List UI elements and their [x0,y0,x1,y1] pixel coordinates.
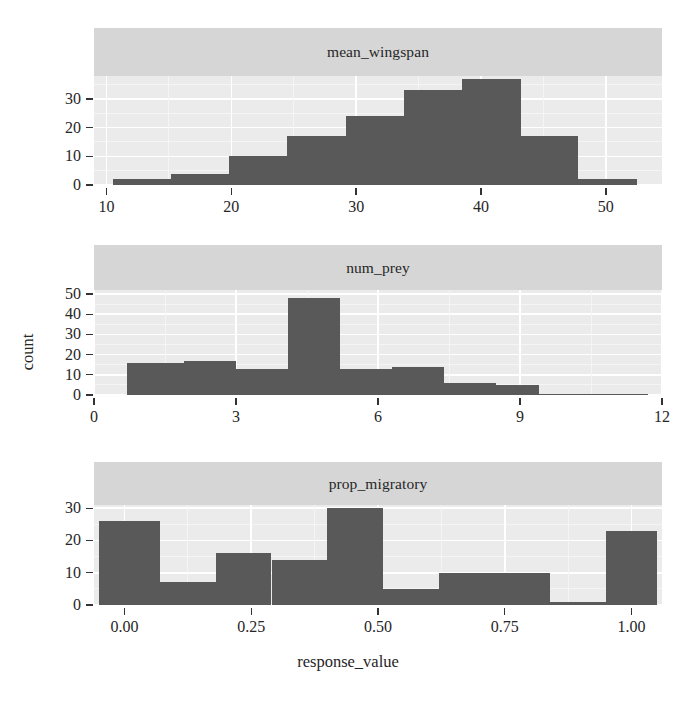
histogram-bar [340,369,392,395]
histogram-bar [495,573,551,605]
facet-panel-mean-wingspan: mean_wingspan [94,28,662,185]
histogram-bar [444,383,496,395]
y-tick-label: 10 [65,148,81,164]
x-tick-mark [631,608,632,615]
x-tick-label: 1.00 [618,619,646,635]
y-tick-mark [86,604,93,605]
histogram-bar [578,179,637,185]
faceted-histogram-figure: mean_wingspan num_prey prop_migratory 01… [0,0,696,704]
x-tick-label: 6 [374,409,382,425]
y-tick-mark [86,314,93,315]
x-tick-mark [605,188,606,195]
x-axis-title: response_value [0,652,696,672]
gridline-vertical-minor [168,76,169,185]
gridline-vertical [94,290,95,395]
histogram-bar [327,508,383,605]
x-tick-label: 12 [654,409,670,425]
gridline-horizontal-minor [94,84,662,85]
y-tick-mark [86,540,93,541]
plot-area [94,290,662,395]
facet-strip-header: num_prey [94,245,662,290]
y-tick-label: 50 [65,286,81,302]
y-tick-label: 10 [65,367,81,383]
y-tick-label: 40 [65,306,81,322]
x-tick-mark [235,398,236,405]
x-tick-mark [480,188,481,195]
histogram-bar [392,367,444,395]
y-tick-mark [86,394,93,395]
y-tick-mark [86,98,93,99]
y-tick-label: 10 [65,565,81,581]
x-tick-label: 50 [598,199,614,215]
y-tick-mark [86,156,93,157]
y-tick-mark [86,127,93,128]
x-tick-mark [251,608,252,615]
facet-panel-num-prey: num_prey [94,245,662,395]
y-tick-label: 20 [65,347,81,363]
x-tick-mark [106,188,107,195]
y-axis-title: count [18,334,38,371]
x-tick-mark [504,608,505,615]
x-tick-label: 20 [223,199,239,215]
x-tick-label: 30 [348,199,364,215]
histogram-bar [229,156,288,185]
y-tick-label: 0 [73,387,81,403]
histogram-bar [550,602,606,605]
gridline-vertical [519,290,521,395]
facet-strip-header: prop_migratory [94,462,662,505]
histogram-bar [496,385,539,395]
y-tick-mark [86,334,93,335]
x-tick-label: 0.25 [237,619,265,635]
x-tick-label: 9 [516,409,524,425]
gridline-vertical-minor [568,505,569,605]
gridline-vertical-minor [591,290,592,395]
y-tick-mark [86,184,93,185]
histogram-bar [216,553,272,605]
histogram-bar [539,394,648,396]
histogram-bar [404,90,463,185]
histogram-bar [288,298,340,395]
plot-area [94,76,662,185]
x-tick-label: 3 [232,409,240,425]
gridline-vertical-minor [449,290,450,395]
y-tick-mark [86,293,93,294]
y-tick-label: 20 [65,532,81,548]
y-tick-mark [86,508,93,509]
y-tick-label: 30 [65,500,81,516]
x-tick-label: 0.75 [491,619,519,635]
y-tick-label: 0 [73,177,81,193]
x-tick-mark [124,608,125,615]
x-tick-mark [661,398,662,405]
histogram-bar [160,582,216,605]
x-tick-mark [93,398,94,405]
facet-title: mean_wingspan [327,44,429,60]
histogram-bar [383,589,439,605]
y-tick-mark [86,374,93,375]
histogram-bar [99,521,160,605]
histogram-bar [127,363,184,395]
x-tick-mark [377,398,378,405]
facet-strip-header: mean_wingspan [94,28,662,76]
x-tick-label: 0.50 [364,619,392,635]
histogram-bar [287,136,346,185]
gridline-vertical [106,76,108,185]
histogram-bar [236,369,288,395]
x-tick-mark [519,398,520,405]
histogram-bar [113,179,172,185]
histogram-bar [606,531,657,605]
gridline-vertical [661,290,662,395]
x-tick-mark [355,188,356,195]
x-tick-mark [377,608,378,615]
facet-title: num_prey [346,260,410,276]
facet-title: prop_migratory [329,476,428,492]
histogram-bar [521,136,578,185]
histogram-bar [171,174,228,185]
y-tick-mark [86,354,93,355]
histogram-bar [462,79,521,185]
x-tick-label: 0 [90,409,98,425]
histogram-bar [346,116,403,185]
facet-panel-prop-migratory: prop_migratory [94,462,662,605]
y-tick-label: 20 [65,120,81,136]
y-tick-label: 0 [73,597,81,613]
x-tick-label: 0.00 [110,619,138,635]
